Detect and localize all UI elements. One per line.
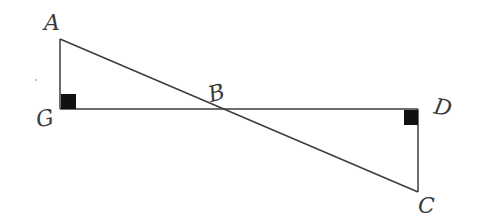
right-angle-marker-d	[404, 110, 418, 125]
label-b: B	[204, 79, 227, 108]
label-d: D	[431, 93, 454, 121]
geometry-diagram: A G B D C	[0, 0, 489, 216]
segment-ac	[60, 39, 418, 192]
right-angle-marker-g	[61, 94, 76, 109]
label-a: A	[42, 10, 60, 35]
stray-mark	[35, 79, 37, 81]
label-c: C	[418, 193, 435, 216]
label-g: G	[34, 105, 56, 133]
